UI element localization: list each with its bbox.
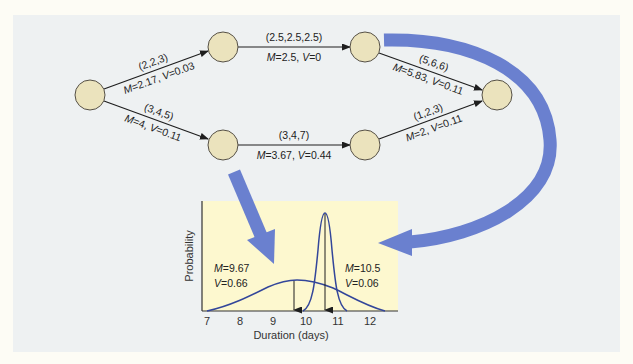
left-variance-annotation: V=0.66 bbox=[214, 277, 248, 289]
x-axis-title: Duration (days) bbox=[253, 329, 328, 341]
right-variance-annotation: V=0.06 bbox=[345, 277, 379, 289]
y-axis-title: Probability bbox=[183, 230, 195, 282]
x-tick-11: 11 bbox=[332, 315, 343, 327]
estimate-label: (2.5,2.5,2.5) bbox=[266, 31, 323, 43]
node-end bbox=[482, 80, 512, 110]
node-upper-1 bbox=[208, 32, 238, 62]
node-upper-2 bbox=[350, 32, 380, 62]
x-tick-7: 7 bbox=[204, 315, 210, 327]
x-tick-9: 9 bbox=[270, 315, 276, 327]
pert-diagram: M=9.67 V=0.66 M=10.5 V=0.06 7 8 9 10 11 … bbox=[0, 0, 633, 364]
mean-variance-label: M=3.67, V=0.44 bbox=[257, 149, 332, 161]
x-tick-8: 8 bbox=[237, 315, 243, 327]
right-mean-annotation: M=10.5 bbox=[345, 262, 380, 274]
left-mean-annotation: M=9.67 bbox=[214, 262, 249, 274]
x-tick-12: 12 bbox=[364, 315, 376, 327]
x-tick-10: 10 bbox=[300, 315, 312, 327]
estimate-label: (3,4,7) bbox=[279, 129, 309, 141]
node-start bbox=[75, 80, 105, 110]
node-lower-1 bbox=[208, 130, 238, 160]
node-lower-2 bbox=[350, 130, 380, 160]
mean-variance-label: M=2.5, V=0 bbox=[267, 51, 321, 63]
chart-background bbox=[202, 201, 398, 311]
